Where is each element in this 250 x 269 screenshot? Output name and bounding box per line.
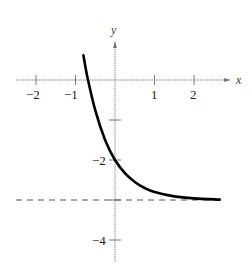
y-tick-label-neg4: −4 [92,233,106,248]
exponential-curve [83,55,219,199]
x-tick-label-2: 2 [190,87,197,102]
y-tick-label-neg2: −2 [92,153,106,168]
x-tick-label-neg1: −1 [64,87,78,102]
y-axis-label: y [110,23,117,37]
x-tick-label-1: 1 [151,87,158,102]
graph: −2 −1 1 2 −2 −4 y x [0,0,250,269]
x-axis-label: x [235,73,242,87]
x-tick-label-neg2: −2 [26,87,40,102]
